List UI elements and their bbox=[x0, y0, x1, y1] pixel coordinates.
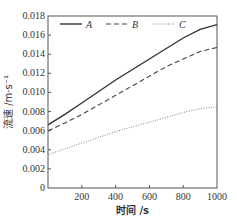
x-tick-label: 800 bbox=[176, 191, 191, 202]
y-tick-label: 0.008 bbox=[23, 106, 46, 117]
series-C-line bbox=[48, 107, 217, 155]
y-tick-label: 0.002 bbox=[23, 163, 46, 174]
series-B-line bbox=[48, 48, 217, 131]
x-axis-label: 时间 /s bbox=[116, 204, 149, 216]
y-tick-label: 0.012 bbox=[23, 67, 46, 78]
y-tick-label: 0.016 bbox=[23, 29, 46, 40]
line-chart: 00.0020.0040.0060.0080.0100.0120.0140.01… bbox=[0, 0, 237, 218]
x-tick-label: 400 bbox=[108, 191, 123, 202]
y-tick-label: 0.010 bbox=[23, 86, 46, 97]
plot-frame bbox=[48, 16, 217, 188]
x-tick-label: 1000 bbox=[207, 191, 227, 202]
legend-B-label: B bbox=[132, 19, 138, 30]
y-tick-label: 0.006 bbox=[23, 125, 46, 136]
y-axis-label: 流速 /m·s⁻¹ bbox=[2, 75, 14, 129]
y-tick-label: 0.018 bbox=[23, 10, 46, 21]
x-tick-label: 200 bbox=[74, 191, 89, 202]
x-tick-label: 600 bbox=[142, 191, 157, 202]
y-tick-label: 0.004 bbox=[23, 144, 46, 155]
legend-C-label: C bbox=[179, 19, 186, 30]
series-A-line bbox=[48, 25, 217, 125]
legend-A-label: A bbox=[85, 19, 93, 30]
y-tick-label: 0.014 bbox=[23, 48, 46, 59]
y-tick-label: 0 bbox=[40, 182, 45, 193]
